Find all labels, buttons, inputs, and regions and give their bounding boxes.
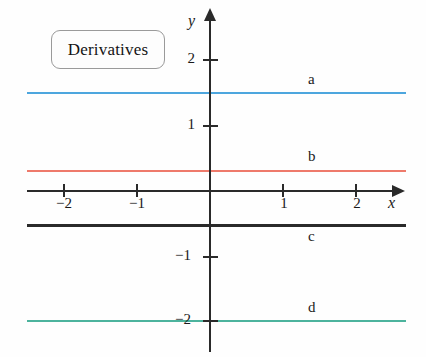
y-tick-pos2 — [203, 59, 218, 61]
x-tick-label-neg1: −1 — [117, 195, 157, 212]
y-axis — [209, 14, 211, 352]
y-tick-neg1 — [203, 256, 218, 258]
x-tick-label-neg2: −2 — [44, 195, 84, 212]
y-axis-label: y — [188, 12, 195, 30]
series-label-d: d — [308, 299, 316, 316]
y-tick-label-neg1: −1 — [151, 247, 191, 264]
x-axis — [27, 190, 398, 192]
y-tick-pos1 — [203, 125, 218, 127]
x-tick-label-pos1: 1 — [264, 195, 304, 212]
series-line-b — [27, 170, 406, 172]
y-axis-arrow-icon — [204, 8, 216, 21]
annotation-label: Derivatives — [68, 40, 149, 60]
y-tick-neg2 — [203, 320, 218, 322]
series-line-c — [27, 224, 406, 227]
series-label-c: c — [308, 228, 315, 245]
y-tick-label-neg2: −2 — [151, 311, 191, 328]
derivatives-annotation-box: Derivatives — [51, 30, 165, 69]
derivatives-graph-figure: −2 −1 1 2 2 1 −1 −2 y x a b c d Derivati… — [0, 0, 426, 357]
series-label-b: b — [308, 148, 316, 165]
x-tick-label-pos2: 2 — [337, 195, 377, 212]
x-axis-label: x — [388, 194, 395, 212]
series-line-a — [27, 92, 406, 94]
series-label-a: a — [308, 71, 315, 88]
y-tick-label-pos1: 1 — [155, 116, 195, 133]
